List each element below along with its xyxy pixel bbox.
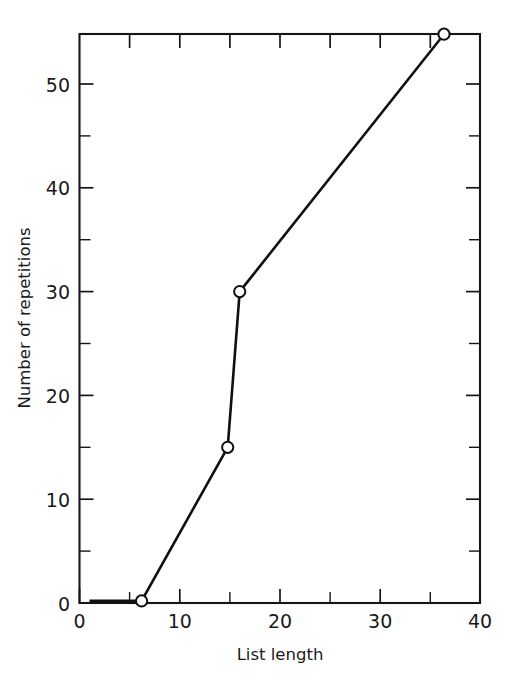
x-tick-label-20: 20 bbox=[268, 610, 292, 632]
plot-frame-box bbox=[80, 34, 481, 603]
data-point-marker-1 bbox=[136, 595, 147, 606]
data-polyline bbox=[90, 34, 445, 601]
y-tick-label-0: 0 bbox=[58, 593, 70, 615]
chart-figure: 0 10 20 30 40 0 10 20 30 40 50 List leng… bbox=[0, 0, 519, 683]
x-axis-tick-labels: 0 10 20 30 40 bbox=[73, 610, 492, 632]
x-tick-label-0: 0 bbox=[73, 610, 85, 632]
x-axis-title: List length bbox=[237, 645, 324, 664]
data-point-marker-2 bbox=[222, 442, 233, 453]
x-tick-label-30: 30 bbox=[368, 610, 392, 632]
y-tick-label-30: 30 bbox=[46, 281, 70, 303]
y-tick-label-10: 10 bbox=[46, 489, 70, 511]
y-axis-tick-labels: 0 10 20 30 40 50 bbox=[46, 74, 70, 615]
data-point-marker-3 bbox=[234, 286, 245, 297]
y-tick-label-50: 50 bbox=[46, 74, 70, 96]
x-tick-label-40: 40 bbox=[468, 610, 492, 632]
y-axis-title: Number of repetitions bbox=[15, 227, 34, 408]
x-axis-ticks-top bbox=[130, 34, 431, 48]
y-tick-label-20: 20 bbox=[46, 385, 70, 407]
y-axis-ticks-right bbox=[466, 84, 480, 551]
y-axis-ticks-left bbox=[80, 84, 94, 603]
x-tick-label-10: 10 bbox=[168, 610, 192, 632]
data-point-marker-4 bbox=[438, 29, 449, 40]
line-chart-canvas: 0 10 20 30 40 0 10 20 30 40 50 List leng… bbox=[0, 0, 519, 683]
y-tick-label-40: 40 bbox=[46, 177, 70, 199]
plot-frame bbox=[80, 34, 481, 603]
data-series-repetitions bbox=[90, 29, 450, 607]
